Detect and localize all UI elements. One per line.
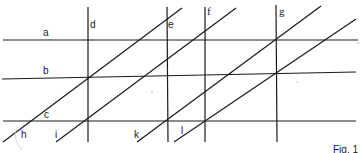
speck — [296, 81, 297, 82]
label-g: g — [279, 5, 285, 17]
label-l: l — [181, 125, 183, 136]
figure-svg: a b c d e f g h i k l Fig. 1 — [0, 0, 360, 153]
line-b — [2, 72, 356, 79]
speck — [151, 91, 152, 92]
label-k: k — [134, 129, 140, 140]
label-h: h — [21, 129, 27, 140]
figure-caption: Fig. 1 — [333, 144, 358, 153]
label-i: i — [55, 129, 57, 140]
label-d: d — [90, 19, 96, 30]
speck — [357, 42, 358, 43]
geometry-figure: a b c d e f g h i k l Fig. 1 — [0, 0, 360, 153]
label-a: a — [43, 27, 49, 38]
speck — [223, 21, 224, 22]
label-f: f — [207, 5, 211, 17]
label-b: b — [43, 65, 49, 76]
label-e: e — [168, 19, 174, 30]
line-l — [174, 19, 356, 142]
label-c: c — [44, 109, 49, 120]
